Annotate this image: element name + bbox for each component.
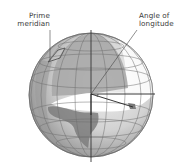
- globe: [29, 30, 157, 157]
- prime-meridian-label-line2: meridian: [8, 20, 50, 28]
- angle-of-longitude-label: Angle of longitude: [139, 12, 193, 29]
- angle-label-line2: longitude: [139, 20, 193, 28]
- prime-meridian-label: Prime meridian: [8, 12, 50, 29]
